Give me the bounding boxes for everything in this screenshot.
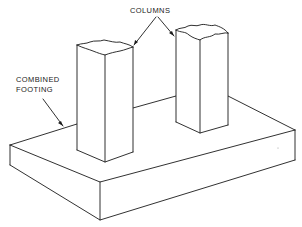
combined-footing-label-line1: COMBINED bbox=[16, 75, 60, 84]
column-right bbox=[176, 24, 228, 133]
combined-footing-diagram bbox=[0, 0, 302, 227]
footing-leader-line bbox=[43, 99, 63, 126]
column-left bbox=[77, 40, 133, 162]
columns-label: COLUMNS bbox=[130, 6, 170, 15]
speck bbox=[278, 148, 279, 149]
combined-footing-label-line2: FOOTING bbox=[16, 85, 53, 94]
footing-slab bbox=[10, 96, 295, 220]
columns-leader-lines bbox=[134, 17, 174, 45]
